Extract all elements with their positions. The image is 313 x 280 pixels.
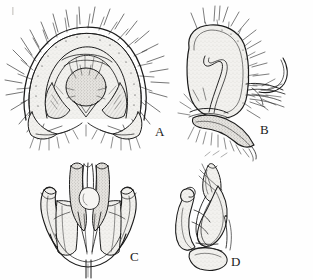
plate-artwork	[0, 0, 313, 280]
illustration-plate: A B C D	[0, 0, 313, 280]
scan-artifact	[12, 7, 14, 15]
panel-label-c: C	[130, 250, 139, 263]
panel-label-b: B	[260, 123, 269, 136]
panel-label-a: A	[155, 125, 164, 138]
panel-label-d: D	[231, 255, 240, 268]
